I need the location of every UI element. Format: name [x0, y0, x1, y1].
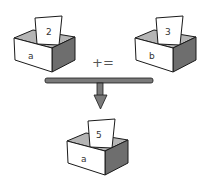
diagram-canvas: 2 a 3 b += 5 a	[0, 0, 211, 186]
box-value: 3	[165, 27, 171, 37]
box-a-result: 5 a	[67, 119, 128, 175]
box-value: 5	[96, 130, 102, 140]
operator-label: +=	[92, 55, 114, 70]
box-value: 2	[46, 27, 52, 37]
box-b: 3 b	[135, 16, 196, 72]
box-name: a	[81, 154, 87, 164]
box-a-initial: 2 a	[14, 16, 75, 72]
arrow-icon	[45, 78, 153, 109]
box-name: a	[28, 51, 34, 61]
box-name: b	[149, 51, 155, 61]
